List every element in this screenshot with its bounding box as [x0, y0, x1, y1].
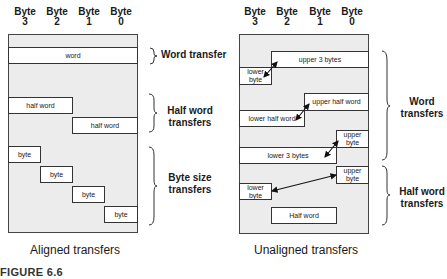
brace-half-word-transfers-icon	[382, 166, 390, 225]
brace-word-transfer-icon	[150, 48, 157, 64]
unaligned-caption: Unaligned transfers	[254, 243, 358, 257]
brace-half-word-icon	[149, 94, 157, 132]
brace-byte-size-icon	[149, 147, 157, 225]
figure-label: FIGURE 6.6	[0, 266, 63, 278]
double-arrow-icon	[272, 175, 336, 191]
double-arrow-icon	[264, 62, 277, 77]
brace-word-transfers-icon	[382, 51, 390, 160]
braces-and-arrows	[0, 0, 447, 279]
aligned-caption: Aligned transfers	[30, 243, 120, 257]
double-arrow-icon	[325, 141, 338, 157]
double-arrow-icon	[296, 104, 309, 120]
